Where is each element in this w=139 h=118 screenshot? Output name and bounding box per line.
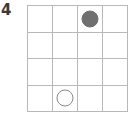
filled-circle-icon [82,10,99,27]
grid-cell-r4-c1[interactable] [28,86,53,113]
open-circle-icon [57,90,74,107]
grid-cell-r3-c4[interactable] [103,59,128,86]
grid-cell-r2-c1[interactable] [28,33,53,60]
grid-cell-r1-c1[interactable] [28,6,53,33]
grid-cell-r2-c4[interactable] [103,33,128,60]
grid-cell-r3-c1[interactable] [28,59,53,86]
grid-cell-r2-c2[interactable] [53,33,78,60]
grid-cell-r3-c3[interactable] [78,59,103,86]
grid-cell-r1-c3[interactable] [78,6,103,33]
grid-cell-r2-c3[interactable] [78,33,103,60]
grid-cell-r4-c3[interactable] [78,86,103,113]
grid-cell-r3-c2[interactable] [53,59,78,86]
grid-cell-r4-c4[interactable] [103,86,128,113]
grid-cell-r4-c2[interactable] [53,86,78,113]
grid-cell-r1-c4[interactable] [103,6,128,33]
puzzle-item: 4 [0,0,139,118]
item-number-label: 4 [1,0,23,20]
puzzle-grid [27,5,128,112]
grid-cell-r1-c2[interactable] [53,6,78,33]
